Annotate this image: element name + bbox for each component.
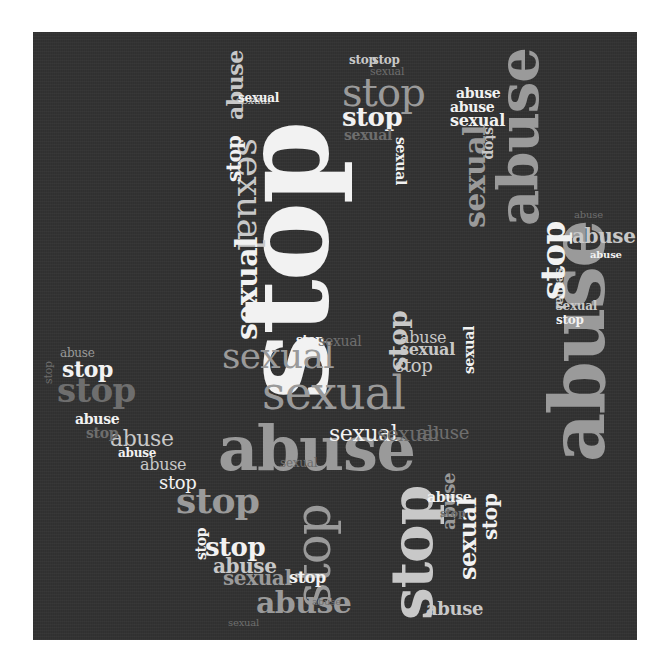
word-sexual: sexual [280,457,317,469]
word-abuse: abuse [417,424,469,442]
word-stop: stop [556,314,584,326]
word-abuse: abuse [312,597,341,607]
word-stop: stop [440,508,465,519]
word-stop: stop [480,494,500,540]
word-sexual: sexual [228,618,259,628]
word-cloud-panel: stopabusesexualsexualabusestopstopstopab… [33,32,637,640]
word-abuse: abuse [224,50,246,120]
word-stop: stop [57,373,136,407]
word-abuse: abuse [426,600,483,618]
word-abuse: abuse [490,48,546,226]
word-sexual: sexual [238,92,279,104]
word-sexual: sexual [556,300,597,312]
word-abuse: abuse [574,210,603,220]
word-stop: stop [536,221,570,300]
word-abuse: abuse [427,490,471,504]
word-stop: stop [194,528,208,560]
word-abuse: abuse [60,347,95,359]
word-abuse: abuse [456,86,500,100]
word-stop: stop [385,311,411,371]
word-sexual: sexual [462,326,476,374]
word-stop: stop [43,361,54,384]
word-sexual: sexual [262,370,405,416]
word-stop: stop [483,127,497,159]
word-sexual: sexual [344,128,392,142]
word-stop: stop [159,474,196,492]
word-sexual: sexual [318,334,362,348]
word-stop: stop [224,136,244,182]
word-abuse: abuse [118,447,156,459]
word-sexual: sexual [394,137,408,185]
word-abuse: abuse [590,250,622,260]
word-abuse: abuse [75,412,119,426]
word-sexual: sexual [223,568,292,588]
word-sexual: sexual [370,66,404,77]
word-stop: stop [86,426,118,440]
word-sexual: sexual [232,237,262,340]
word-abuse: abuse [572,226,635,246]
word-stop: stop [289,570,326,586]
